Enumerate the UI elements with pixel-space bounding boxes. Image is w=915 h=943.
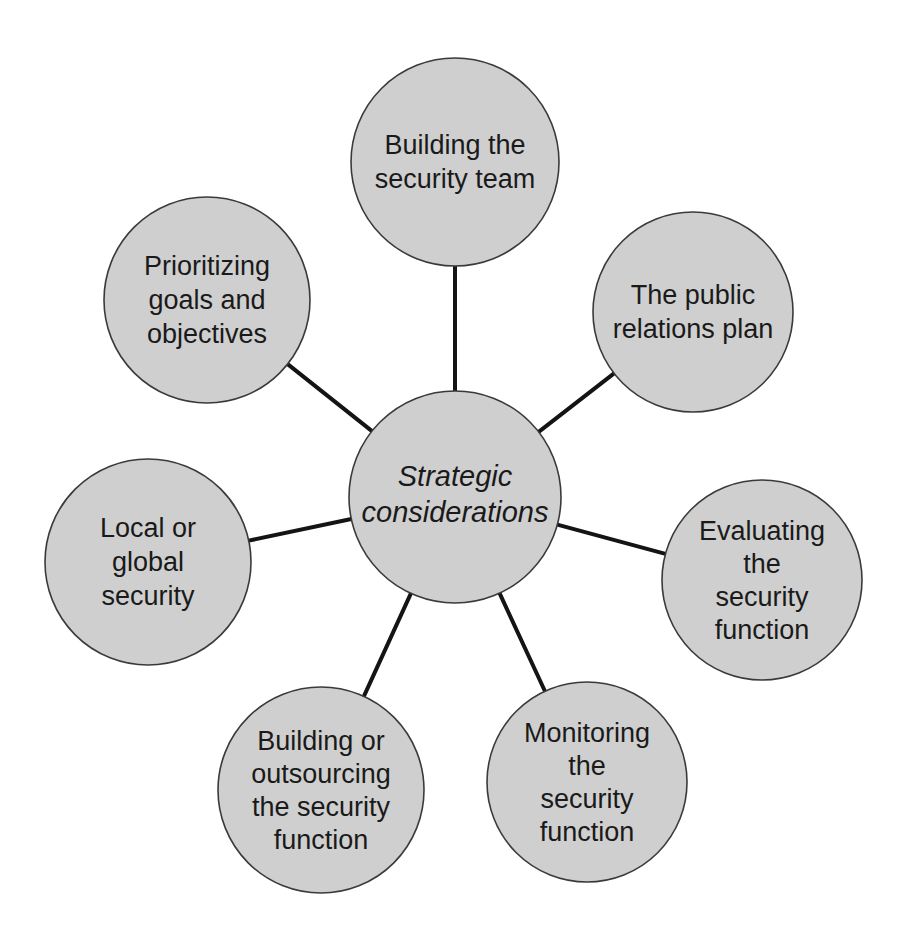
node-label-line: the bbox=[568, 751, 606, 781]
node-label-line: security bbox=[540, 784, 634, 814]
node-label-line: security bbox=[101, 581, 195, 611]
node-evaluating: Evaluatingthesecurityfunction bbox=[662, 480, 862, 680]
node-label-line: function bbox=[540, 817, 635, 847]
node-label-line: the bbox=[743, 549, 781, 579]
node-label-line: considerations bbox=[362, 496, 549, 528]
node-label-line: Monitoring bbox=[524, 718, 650, 748]
node-label-line: Prioritizing bbox=[144, 251, 270, 281]
node-public-relations: The publicrelations plan bbox=[593, 212, 793, 412]
connector-line-prioritizing bbox=[288, 364, 372, 431]
node-local-global: Local orglobalsecurity bbox=[45, 459, 251, 665]
node-building-outsourcing: Building oroutsourcingthe securityfuncti… bbox=[218, 687, 424, 893]
center-node: Strategicconsiderations bbox=[349, 391, 561, 603]
node-building-team: Building thesecurity team bbox=[351, 58, 559, 266]
hub-diagram: Building thesecurity teamThe publicrelat… bbox=[0, 0, 915, 943]
node-label-line: function bbox=[274, 825, 369, 855]
node-label-line: Building the bbox=[384, 130, 525, 160]
node-label-line: The public bbox=[631, 280, 756, 310]
node-circle bbox=[487, 682, 687, 882]
connector-line-local-global bbox=[249, 519, 352, 541]
node-label-line: goals and bbox=[148, 285, 265, 315]
node-label-line: security bbox=[715, 582, 809, 612]
node-label-line: global bbox=[112, 547, 184, 577]
node-label-line: Local or bbox=[100, 513, 196, 543]
connector-line-evaluating bbox=[557, 525, 665, 554]
connector-line-building-outsourcing bbox=[364, 593, 411, 696]
node-monitoring: Monitoringthesecurityfunction bbox=[487, 682, 687, 882]
connector-line-public-relations bbox=[539, 373, 614, 432]
node-label-line: outsourcing bbox=[251, 759, 391, 789]
node-circle bbox=[351, 58, 559, 266]
node-label-line: relations plan bbox=[613, 314, 774, 344]
node-circle bbox=[218, 687, 424, 893]
node-label-line: objectives bbox=[147, 319, 267, 349]
node-label-line: Building or bbox=[257, 726, 385, 756]
node-prioritizing: Prioritizinggoals andobjectives bbox=[104, 197, 310, 403]
node-label-line: Strategic bbox=[398, 460, 513, 492]
node-circle bbox=[593, 212, 793, 412]
node-circle bbox=[662, 480, 862, 680]
node-label-line: function bbox=[715, 615, 810, 645]
node-label-line: the security bbox=[252, 792, 391, 822]
connector-line-monitoring bbox=[500, 593, 545, 691]
node-label-line: security team bbox=[375, 164, 536, 194]
node-label-line: Evaluating bbox=[699, 516, 825, 546]
